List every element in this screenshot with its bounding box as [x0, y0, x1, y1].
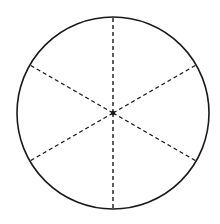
circle-diagram	[0, 0, 220, 224]
radius-line-330deg	[113, 113, 196, 161]
radius-line-150deg	[30, 65, 113, 113]
radius-line-210deg	[30, 113, 113, 161]
center-point	[111, 111, 115, 115]
radius-line-30deg	[113, 65, 196, 113]
diagram-canvas	[0, 0, 220, 224]
